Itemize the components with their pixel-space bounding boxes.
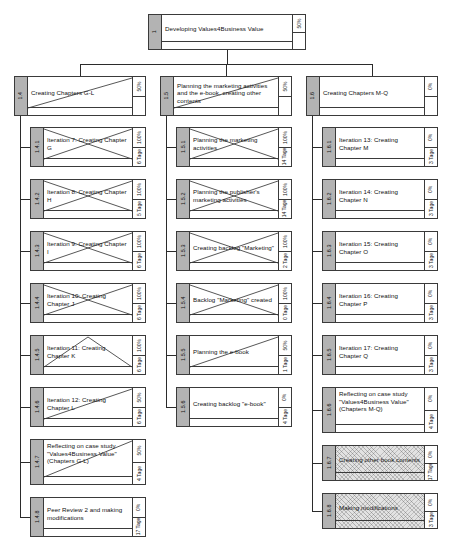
spine-1.4 xyxy=(20,116,21,517)
node-body: Iteration 14: Creating Chapter N xyxy=(336,180,424,218)
task-node-1.6.2[interactable]: 1.6.2Iteration 14: Creating Chapter N0%3… xyxy=(322,179,438,219)
elbow-1.5.1 xyxy=(166,147,176,148)
node-meta-column: 0%17 Tage xyxy=(424,446,437,480)
node-body: Reflecting on case study "Values4Busines… xyxy=(336,388,424,432)
task-node-1.6.6[interactable]: 1.6.6Reflecting on case study "Values4Bu… xyxy=(322,387,438,433)
node-id-label: 1.6.4 xyxy=(326,297,331,310)
node-percent-cell: 0% xyxy=(133,498,145,518)
task-node-1.4.5[interactable]: 1.4.5Iteration 11: Creating Chapter K100… xyxy=(30,335,146,375)
node-body: Iteration 17: Creating Chapter Q xyxy=(336,336,424,374)
node-duration-cell: 6 Tage xyxy=(133,408,145,427)
node-duration-cell: 6 Tage xyxy=(133,148,145,167)
task-node-1.5.1[interactable]: 1.5.1Planning the marketing activities10… xyxy=(176,127,292,167)
node-duration-label: 14 Tage xyxy=(283,200,288,218)
node-percent-label: 100% xyxy=(137,339,142,352)
node-id-label: 1.6.1 xyxy=(326,141,331,154)
node-id-column: 1.4.4 xyxy=(31,284,44,322)
node-label: Iteration 17: Creating Chapter Q xyxy=(336,336,424,366)
node-body: Planning the e-book xyxy=(190,336,278,374)
node-footer-bar xyxy=(44,262,132,270)
task-node-1.5.6[interactable]: 1.5.6Creating backlog "e-book"0%4 Tage xyxy=(176,387,292,427)
node-percent-label: 0% xyxy=(282,394,287,401)
node-footer-bar xyxy=(336,158,424,166)
task-node-1.6.1[interactable]: 1.6.1Iteration 13: Creating Chapter M0%3… xyxy=(322,127,438,167)
task-node-1.4.4[interactable]: 1.4.4Iteration 10: Creating Chapter J100… xyxy=(30,283,146,323)
node-duration-cell: 17 Tage xyxy=(425,464,437,481)
task-node-1.4.8[interactable]: 1.4.8Peer Review 2 and making modificati… xyxy=(30,497,146,537)
node-percent-label: 100% xyxy=(283,287,288,300)
node-footer-bar xyxy=(28,107,132,115)
elbow-1.4.4 xyxy=(20,303,30,304)
node-percent-label: 0% xyxy=(428,451,433,458)
task-node-1.4.3[interactable]: 1.4.3Iteration 9: Creating Chapter I100%… xyxy=(30,231,146,271)
node-duration-label: 3 Tage xyxy=(429,149,434,164)
node-meta-column: 100%5 Tage xyxy=(132,180,145,218)
task-node-1.5.2[interactable]: 1.5.2Planning the publisher's marketing … xyxy=(176,179,292,219)
node-percent-cell: 0% xyxy=(425,180,437,200)
node-percent-label: 100% xyxy=(137,235,142,248)
task-node-1.4.2[interactable]: 1.4.2Iteration 8: Creating Chapter H100%… xyxy=(30,179,146,219)
node-id-column: 1 xyxy=(149,15,162,49)
node-percent-cell: 0% xyxy=(425,388,437,411)
node-body: Creating other book contents xyxy=(336,446,424,480)
node-id-label: 1.4.5 xyxy=(34,349,39,362)
task-node-1.4.6[interactable]: 1.4.6Iteration 12: Creating Chapter L50%… xyxy=(30,387,146,427)
node-id-column: 1.5 xyxy=(161,77,174,115)
branch-node-1.5[interactable]: 1.5Planning the marketing activities and… xyxy=(160,76,292,116)
node-duration-label: 6 Tage xyxy=(137,253,142,268)
node-label: Making modifications xyxy=(336,494,424,520)
node-footer-bar xyxy=(190,366,278,374)
task-node-1.6.3[interactable]: 1.6.3Iteration 15: Creating Chapter O0%3… xyxy=(322,231,438,271)
branch-node-1.4[interactable]: 1.4Creating Chapters G-L50% xyxy=(14,76,146,116)
node-percent-label: 0% xyxy=(428,499,433,506)
node-percent-cell: 0% xyxy=(425,494,437,512)
root-node[interactable]: 1Developing Values4Business Value50% xyxy=(148,14,306,50)
node-footer-bar xyxy=(44,418,132,426)
node-percent-cell: 0% xyxy=(425,336,437,356)
node-id-label: 1.4.3 xyxy=(34,245,39,258)
node-footer-bar xyxy=(336,472,424,480)
node-duration-cell: 3 Tage xyxy=(425,200,437,219)
task-node-1.5.5[interactable]: 1.5.5Planning the e-book50%1 Tage xyxy=(176,335,292,375)
node-percent-label: 0% xyxy=(428,342,433,349)
node-label: Iteration 15: Creating Chapter O xyxy=(336,232,424,262)
node-percent-label: 0% xyxy=(428,238,433,245)
node-percent-cell: 100% xyxy=(133,232,145,252)
node-percent-cell: 50% xyxy=(293,15,305,33)
node-id-column: 1.6.8 xyxy=(323,494,336,528)
node-body: Iteration 15: Creating Chapter O xyxy=(336,232,424,270)
node-label: Creating backlog "e-book" xyxy=(190,388,278,418)
node-duration-label: 3 Tage xyxy=(429,201,434,216)
node-duration-cell: 17 Tage xyxy=(133,518,145,537)
branch-node-1.6[interactable]: 1.6Creating Chapters M-Q0% xyxy=(306,76,438,116)
node-id-label: 1.6.3 xyxy=(326,245,331,258)
node-label: Iteration 9: Creating Chapter I xyxy=(44,232,132,262)
node-duration-cell: 6 Tage xyxy=(133,252,145,271)
node-body: Making modifications xyxy=(336,494,424,528)
task-node-1.6.7[interactable]: 1.6.7Creating other book contents0%17 Ta… xyxy=(322,445,438,481)
node-meta-column: 100%6 Tage xyxy=(132,232,145,270)
node-percent-cell: 100% xyxy=(279,128,291,148)
node-duration-label: 5 Tage xyxy=(137,201,142,216)
task-node-1.5.4[interactable]: 1.5.4Backlog "Marketing" created100%0 Ta… xyxy=(176,283,292,323)
task-node-1.6.8[interactable]: 1.6.8Making modifications0%3 Tage xyxy=(322,493,438,529)
node-id-column: 1.5.4 xyxy=(177,284,190,322)
node-duration-label: 4 Tage xyxy=(137,466,142,481)
node-label: Iteration 11: Creating Chapter K xyxy=(44,336,132,366)
node-meta-column: 100%0 Tage xyxy=(278,284,291,322)
node-meta-column: 0%3 Tage xyxy=(424,494,437,528)
node-footer-bar xyxy=(44,158,132,166)
task-node-1.4.7[interactable]: 1.4.7Reflecting on case study "Values4Bu… xyxy=(30,439,146,485)
task-node-1.5.3[interactable]: 1.5.3Creating backlog "Marketing"100%2 T… xyxy=(176,231,292,271)
node-id-column: 1.4.3 xyxy=(31,232,44,270)
node-percent-cell: 0% xyxy=(425,77,437,97)
task-node-1.4.1[interactable]: 1.4.1Iteration 7: Creating Chapter G100%… xyxy=(30,127,146,167)
task-node-1.6.5[interactable]: 1.6.5Iteration 17: Creating Chapter Q0%3… xyxy=(322,335,438,375)
node-duration-label: 6 Tage xyxy=(137,409,142,424)
task-node-1.6.4[interactable]: 1.6.4Iteration 16: Creating Chapter P0%3… xyxy=(322,283,438,323)
node-body: Iteration 10: Creating Chapter J xyxy=(44,284,132,322)
node-percent-cell: 0% xyxy=(279,388,291,408)
node-id-column: 1.6.7 xyxy=(323,446,336,480)
node-footer-bar xyxy=(190,418,278,426)
node-id-column: 1.5.6 xyxy=(177,388,190,426)
